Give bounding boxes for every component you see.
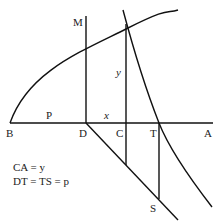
equation-CA: CA = y (13, 161, 45, 173)
label-y-segment: y (115, 66, 121, 78)
label-A: A (204, 127, 212, 139)
label-B: B (6, 127, 13, 139)
label-D: D (79, 127, 87, 139)
geometry-diagram: M B D C T A S P x y CA = y DT = TS = p (0, 0, 220, 224)
diagonal-line-DS (86, 123, 178, 220)
equation-DT-TS: DT = TS = p (13, 175, 70, 187)
label-S: S (150, 202, 156, 214)
label-x-segment: x (103, 109, 109, 121)
label-T: T (150, 127, 157, 139)
label-M: M (73, 16, 83, 28)
label-p-segment: P (46, 109, 52, 121)
label-C: C (116, 127, 123, 139)
steep-curve (123, 10, 212, 207)
